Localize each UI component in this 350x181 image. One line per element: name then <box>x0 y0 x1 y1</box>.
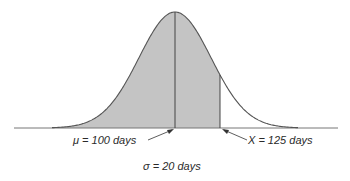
mu-arrow <box>148 129 174 140</box>
x-value-label: X = 125 days <box>248 134 313 146</box>
std-dev-label: σ = 20 days <box>143 160 201 172</box>
mean-label: μ = 100 days <box>73 134 136 146</box>
normal-distribution-chart <box>0 0 350 181</box>
shaded-area <box>52 12 220 128</box>
x-arrow <box>222 129 247 140</box>
